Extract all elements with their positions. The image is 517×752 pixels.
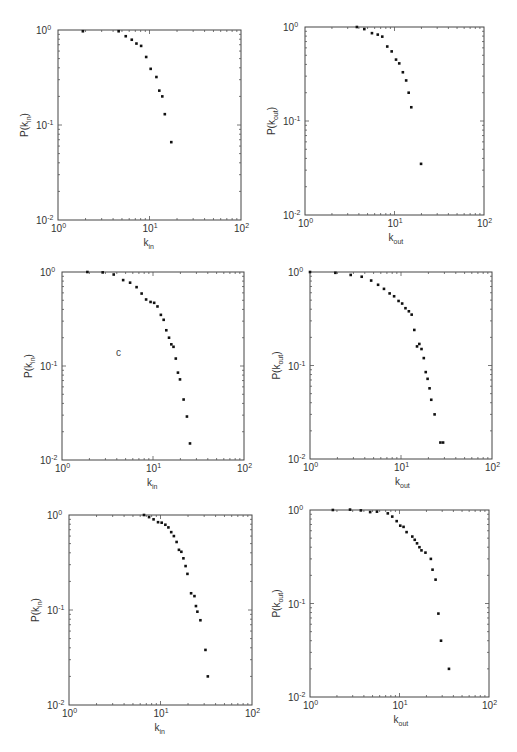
data-point (401, 302, 404, 305)
data-point (129, 281, 132, 284)
data-point (309, 271, 312, 274)
data-point (349, 274, 352, 277)
data-point (186, 573, 189, 576)
plot-frame (310, 510, 489, 697)
data-point (370, 279, 373, 282)
data-point (405, 531, 408, 534)
data-point (408, 310, 411, 313)
axis-ticks (310, 272, 492, 459)
x-tick-label: 101 (388, 217, 403, 229)
data-point (397, 300, 400, 303)
panel-top-left: 10010110210-210-1100kinP(kin) (19, 24, 249, 250)
plot-frame (305, 27, 484, 215)
data-point (420, 163, 423, 166)
y-axis-label: P(kin) (19, 113, 32, 137)
data-point (156, 305, 159, 308)
data-point (170, 141, 173, 144)
y-tick-label: 100 (288, 266, 303, 278)
data-point (360, 275, 363, 278)
x-tick-label: 100 (303, 699, 318, 711)
x-tick-label: 100 (303, 461, 318, 473)
x-tick-label: 101 (394, 461, 409, 473)
y-tick-label: 10-1 (47, 604, 64, 616)
data-point (349, 508, 352, 511)
y-tick-label: 10-1 (288, 598, 305, 610)
data-point (184, 565, 187, 568)
plot-frame (62, 272, 244, 460)
axis-ticks (62, 272, 244, 460)
data-point (86, 271, 89, 274)
data-point (424, 371, 427, 374)
data-point (371, 32, 374, 35)
data-point (168, 336, 171, 339)
x-tick-label: 102 (245, 707, 260, 719)
data-point (434, 578, 437, 581)
data-points (82, 30, 173, 143)
data-point (204, 649, 207, 652)
data-point (157, 521, 160, 524)
axis-ticks (305, 27, 484, 215)
data-point (174, 357, 177, 360)
data-point (442, 441, 445, 444)
y-tick-label: 100 (47, 509, 62, 521)
data-point (426, 378, 429, 381)
x-tick-label: 100 (62, 707, 77, 719)
data-point (410, 313, 413, 316)
x-tick-label: 101 (143, 222, 158, 234)
data-point (164, 523, 167, 526)
data-point (334, 272, 337, 275)
data-point (165, 329, 168, 332)
x-axis-label: kout (389, 232, 404, 245)
data-point (440, 639, 443, 642)
data-point (195, 605, 198, 608)
axis-ticks (69, 515, 252, 705)
data-points (143, 514, 209, 678)
data-point (152, 518, 155, 521)
x-tick-label: 102 (485, 461, 500, 473)
data-point (420, 549, 423, 552)
data-point (170, 343, 173, 346)
y-tick-label: 100 (283, 21, 298, 33)
data-points (356, 26, 423, 165)
data-point (428, 387, 431, 390)
data-point (199, 619, 202, 622)
data-point (413, 539, 416, 542)
y-axis-label: P(kout) (266, 107, 279, 135)
y-axis-label: P(kout) (271, 351, 284, 379)
data-point (207, 675, 210, 678)
data-point (158, 89, 161, 92)
panel-middle-right: 10010110210-210-1100koutP(kout) (271, 266, 500, 489)
data-point (135, 286, 138, 289)
data-point (162, 319, 165, 322)
data-point (399, 524, 402, 527)
data-point (170, 531, 173, 534)
data-point (376, 33, 379, 36)
data-points (332, 508, 451, 670)
data-point (186, 415, 189, 418)
data-point (175, 541, 178, 544)
data-point (122, 279, 125, 282)
x-axis-label: kin (144, 237, 155, 250)
data-point (190, 592, 193, 595)
data-point (130, 38, 133, 41)
data-point (386, 512, 389, 515)
x-tick-label: 102 (482, 699, 497, 711)
x-tick-label: 101 (393, 699, 408, 711)
data-point (383, 288, 386, 291)
data-point (148, 516, 151, 519)
data-point (398, 62, 401, 65)
x-tick-label: 101 (154, 707, 169, 719)
data-point (430, 558, 433, 561)
y-axis-label: P(kout) (271, 589, 284, 617)
data-point (369, 511, 372, 514)
data-point (140, 292, 143, 295)
panel-top-right: 10010110210-210-1100koutP(kout) (266, 21, 492, 245)
panel-annotation: c (116, 347, 121, 358)
y-tick-label: 100 (40, 266, 55, 278)
x-tick-label: 102 (237, 462, 252, 474)
data-point (407, 91, 410, 94)
data-point (416, 345, 419, 348)
x-axis-label: kout (394, 714, 409, 727)
data-point (390, 50, 393, 53)
data-point (145, 298, 148, 301)
